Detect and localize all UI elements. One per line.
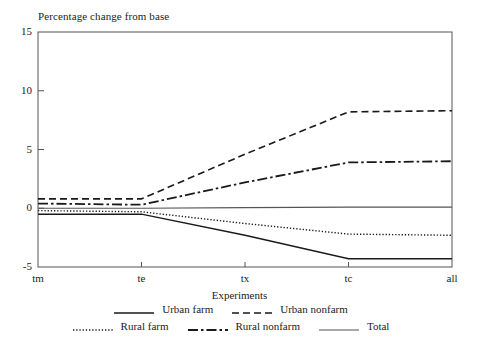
- y-tick-label: 0: [6, 201, 32, 213]
- legend-swatch-icon: [72, 321, 114, 331]
- legend-swatch-icon: [318, 321, 360, 331]
- legend-entry-rural-farm: Rural farm: [72, 320, 187, 332]
- series-lines: [38, 111, 452, 259]
- legend-swatch-icon: [187, 321, 229, 331]
- series-line-rural-nonfarm: [38, 161, 452, 204]
- legend-row-2: Rural farmRural nonfarmTotal: [0, 317, 479, 334]
- legend-entry-total: Total: [318, 320, 407, 332]
- x-tick-label: all: [432, 272, 472, 284]
- y-tick-label: 15: [6, 25, 32, 37]
- y-tick-label: 10: [6, 84, 32, 96]
- legend-entry-urban-farm: Urban farm: [113, 303, 231, 315]
- legend-entry-rural-nonfarm: Rural nonfarm: [187, 320, 318, 332]
- x-tick-label: tc: [329, 272, 369, 284]
- legend-label: Urban farm: [162, 303, 213, 315]
- y-tick-label: 5: [6, 143, 32, 155]
- x-tick-label: tm: [18, 272, 58, 284]
- y-tick-label: -5: [6, 260, 32, 272]
- series-line-total: [38, 207, 452, 208]
- legend-entry-urban-nonfarm: Urban nonfarm: [231, 303, 366, 315]
- legend-swatch-icon: [231, 304, 273, 314]
- legend-label: Urban nonfarm: [280, 303, 348, 315]
- x-tick-label: tx: [225, 272, 265, 284]
- chart-figure: Percentage change from base 151050-5 tmt…: [0, 0, 479, 352]
- plot-frame: [38, 32, 452, 267]
- x-axis-ticks: [142, 262, 349, 267]
- legend-label: Total: [367, 320, 389, 332]
- x-tick-label: te: [122, 272, 162, 284]
- chart-legend: Urban farmUrban nonfarm Rural farmRural …: [0, 300, 479, 334]
- y-axis-ticks: [38, 91, 44, 209]
- legend-swatch-icon: [113, 304, 155, 314]
- series-line-urban-nonfarm: [38, 111, 452, 199]
- legend-label: Rural farm: [121, 320, 169, 332]
- series-line-urban-farm: [38, 214, 452, 259]
- legend-row-1: Urban farmUrban nonfarm: [0, 300, 479, 317]
- legend-label: Rural nonfarm: [236, 320, 300, 332]
